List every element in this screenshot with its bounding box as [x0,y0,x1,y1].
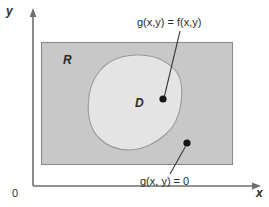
outer-region-label: R [63,54,72,66]
math-diagram-figure: y x 0 R D g(x,y) = f(x,y) g(x, y) = 0 [0,0,269,207]
y-axis [30,8,37,186]
y-axis-arrow-icon [30,8,37,17]
inner-region-label: D [135,97,144,109]
outer-point-annotation-label: g(x, y) = 0 [140,176,189,187]
y-axis-label: y [6,5,13,17]
inner-point-annotation-label: g(x,y) = f(x,y) [137,17,201,28]
x-axis-label: x [256,187,263,199]
origin-label: 0 [12,188,18,199]
outer-point-dot [183,139,190,146]
inner-point-dot [159,95,166,102]
